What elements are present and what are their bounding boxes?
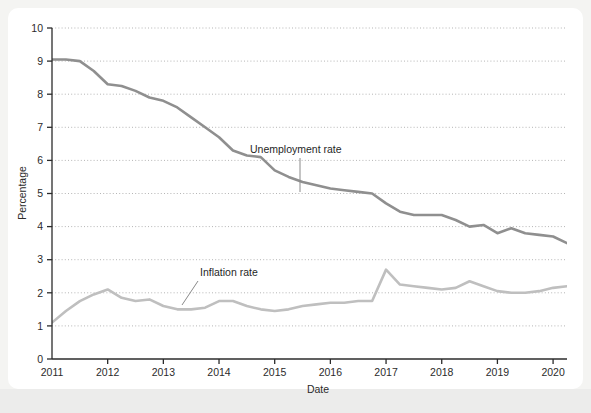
series-annotations: Unemployment rateInflation rate [182,143,342,305]
unemployment-rate-annotation-label: Unemployment rate [250,143,342,155]
x-axis-tick-label: 2015 [263,366,287,378]
y-axis-tick-label: 7 [37,121,43,133]
y-axis-tick-label: 9 [37,55,43,67]
inflation-rate-annotation-leader-line [182,281,198,305]
x-axis-tick-label: 2018 [430,366,454,378]
y-axis-tick-label: 1 [37,320,43,332]
x-axis-tick-label: 2013 [152,366,176,378]
y-axis-ticks: 012345678910 [31,22,52,365]
y-axis-title: Percentage [16,166,28,220]
y-axis-tick-label: 6 [37,154,43,166]
x-axis-tick-label: 2014 [207,366,231,378]
inflation-rate-annotation-label: Inflation rate [200,266,258,278]
x-axis-tick-label: 2011 [41,366,64,378]
series-lines [52,59,567,322]
x-axis-tick-label: 2019 [486,366,510,378]
y-axis-tick-label: 0 [37,353,43,365]
y-axis-tick-label: 5 [37,187,43,199]
line-chart: 012345678910 201120122013201420152016201… [0,0,591,413]
figure-root: 012345678910 201120122013201420152016201… [0,0,591,413]
y-axis-tick-label: 10 [31,22,43,34]
y-axis-tick-label: 2 [37,287,43,299]
x-axis-title: Date [307,383,329,395]
gridlines [52,28,567,326]
x-axis-tick-label: 2012 [96,366,120,378]
y-axis-tick-label: 8 [37,88,43,100]
x-axis-ticks: 2011201220132014201520162017201820192020 [41,359,565,378]
x-axis-tick-label: 2016 [319,366,343,378]
y-axis-tick-label: 3 [37,253,43,265]
series-line-inflation-rate [52,270,567,323]
x-axis-tick-label: 2017 [374,366,398,378]
y-axis-tick-label: 4 [37,220,43,232]
x-axis-tick-label: 2020 [541,366,565,378]
